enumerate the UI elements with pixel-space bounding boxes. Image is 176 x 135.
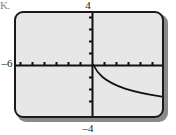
y-min-label: –4 <box>0 123 176 134</box>
graph-figure: K. 4 –6 –4 <box>0 0 176 135</box>
plot-canvas <box>16 13 162 116</box>
function-curve <box>93 65 162 97</box>
x-min-label: –6 <box>0 58 14 69</box>
y-max-label: 4 <box>0 0 176 11</box>
calculator-screen <box>14 11 164 118</box>
